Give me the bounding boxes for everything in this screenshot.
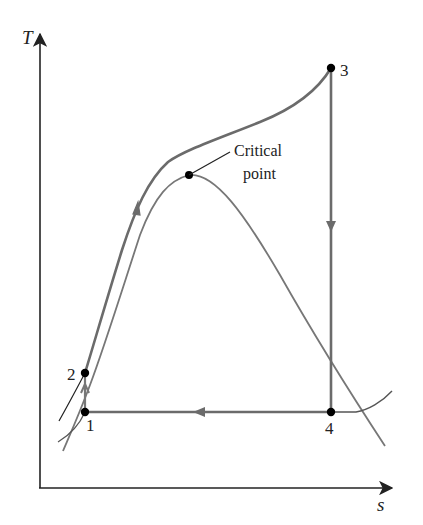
- x-axis-label: s: [377, 494, 384, 515]
- state-point-3: [327, 64, 335, 72]
- critical-point-label-line1: Critical: [234, 142, 283, 159]
- state-label-3: 3: [340, 61, 349, 80]
- saturation-dome: [63, 175, 385, 451]
- arrow-3-4: [326, 221, 336, 232]
- critical-point-leader: [189, 152, 230, 175]
- state-point-4: [327, 408, 335, 416]
- axes: T s: [22, 27, 392, 515]
- state-point-1: [81, 408, 89, 416]
- process-2-3: [85, 68, 331, 373]
- state-label-1: 1: [86, 416, 95, 435]
- state-label-4: 4: [325, 419, 334, 438]
- state-label-2: 2: [67, 365, 76, 384]
- arrow-4-1: [193, 407, 205, 417]
- y-axis-label: T: [22, 27, 34, 48]
- critical-point-label-line2: point: [243, 165, 276, 183]
- ts-diagram: T s 1 2 3 4 Critical point: [0, 0, 423, 525]
- state-point-2: [81, 369, 89, 377]
